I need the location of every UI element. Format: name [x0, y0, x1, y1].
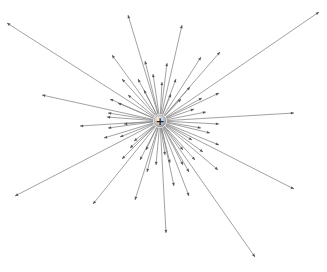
field-line	[167, 113, 294, 121]
arrowhead-icon	[203, 111, 206, 114]
field-line	[122, 79, 155, 116]
arrowhead-icon	[187, 193, 190, 196]
arrowhead-icon	[191, 109, 194, 112]
arrowhead-icon	[135, 197, 138, 200]
field-line	[166, 12, 319, 117]
arrowhead-icon	[80, 124, 83, 127]
arrowhead-icon	[174, 79, 177, 82]
plus-sign-icon: +	[155, 115, 164, 128]
field-line-diagram: +	[0, 0, 327, 272]
arrowhead-icon	[104, 136, 107, 139]
arrowhead-icon	[216, 122, 219, 125]
arrowhead-icon	[108, 112, 111, 115]
field-line	[15, 124, 154, 196]
field-lines-group	[7, 12, 319, 257]
arrowhead-icon	[120, 135, 123, 138]
arrowhead-icon	[252, 254, 255, 257]
arrowhead-icon	[164, 230, 167, 233]
arrowhead-icon	[107, 116, 110, 119]
field-line	[163, 128, 189, 196]
field-line	[165, 126, 218, 170]
field-line	[166, 124, 294, 189]
arrowhead-icon	[291, 112, 294, 115]
arrowhead-icon	[198, 126, 201, 129]
field-line	[144, 90, 157, 115]
arrowhead-icon	[316, 12, 319, 15]
field-line	[164, 57, 201, 115]
field-line	[42, 95, 153, 119]
arrowhead-icon	[160, 82, 163, 85]
field-line	[135, 128, 158, 200]
positive-charge: +	[154, 115, 166, 128]
field-line	[128, 15, 158, 114]
arrowhead-icon	[128, 15, 131, 18]
